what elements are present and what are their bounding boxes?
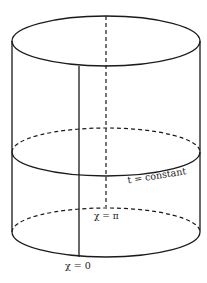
cylinder-diagram: t = constant χ = π χ = 0 bbox=[0, 0, 207, 283]
t-constant-label: t = constant bbox=[127, 165, 187, 185]
bottom-front-half bbox=[12, 232, 200, 257]
chi-pi-label: χ = π bbox=[94, 211, 119, 221]
chi-zero-label: χ = 0 bbox=[65, 260, 91, 271]
